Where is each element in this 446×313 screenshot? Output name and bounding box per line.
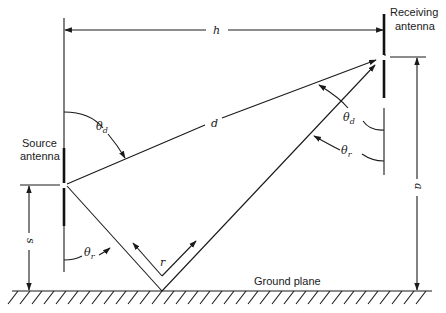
theta-d-source-label: θd bbox=[96, 120, 108, 135]
s-label: s bbox=[24, 238, 37, 244]
source-antenna: Source antenna bbox=[20, 137, 64, 272]
receiving-antenna-label-line1: Receiving bbox=[390, 6, 438, 18]
d-label: d bbox=[211, 117, 218, 130]
antenna-diagram: h Source antenna Receiving antenna d r θ… bbox=[0, 0, 446, 313]
a-label: a bbox=[412, 183, 425, 190]
reflected-ray: r bbox=[67, 65, 375, 291]
source-antenna-label-line1: Source bbox=[22, 137, 57, 149]
h-dimension: h bbox=[65, 24, 383, 37]
direct-ray: d bbox=[67, 60, 376, 184]
ground-hatching bbox=[8, 291, 426, 304]
source-antenna-label-line2: antenna bbox=[20, 150, 61, 162]
s-dimension: s bbox=[20, 185, 60, 290]
h-label: h bbox=[213, 24, 220, 37]
receiving-antenna: Receiving antenna bbox=[384, 6, 438, 175]
ground-plane: Ground plane bbox=[8, 275, 432, 304]
theta-d-source-angle: θd bbox=[64, 112, 125, 158]
theta-d-receiver-label: θd bbox=[343, 111, 355, 126]
theta-r-source-angle: θr bbox=[64, 246, 110, 261]
theta-r-receiver-label: θr bbox=[341, 144, 353, 159]
ground-plane-label: Ground plane bbox=[254, 275, 321, 287]
r-label: r bbox=[160, 256, 166, 269]
theta-r-source-label: θr bbox=[84, 246, 96, 261]
theta-d-receiver-angle: θd bbox=[319, 85, 384, 130]
receiving-antenna-label-line2: antenna bbox=[395, 20, 436, 32]
a-dimension: a bbox=[390, 57, 426, 290]
theta-r-receiver-angle: θr bbox=[314, 136, 384, 161]
